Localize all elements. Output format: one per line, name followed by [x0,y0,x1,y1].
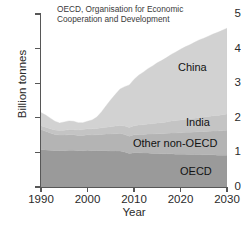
chart-figure: OECD, Organisation for Economic Cooperat… [0,0,241,225]
y-tick-0 [35,186,40,187]
x-tick-2010 [133,187,134,192]
series-label-oecd: OECD [180,166,212,177]
stacked-area-svg [41,14,227,187]
x-tick-label-2000: 2000 [67,193,109,205]
y-tick-5 [35,13,40,14]
y-tick-1 [35,152,40,153]
series-label-other-non-oecd: Other non-OECD [133,138,217,149]
x-tick-2000 [87,187,88,192]
y-tick-4 [35,48,40,49]
x-tick-label-2010: 2010 [113,193,155,205]
x-tick-label-2030: 2030 [206,193,241,205]
series-label-china: China [178,62,207,73]
plot-area [41,14,227,187]
y-axis-label: Billion tonnes [16,38,28,130]
series-label-india: India [186,117,210,128]
x-tick-label-2020: 2020 [160,193,202,205]
x-tick-1990 [40,187,41,192]
x-tick-2030 [226,187,227,192]
y-tick-2 [35,117,40,118]
x-tick-label-1990: 1990 [20,193,62,205]
y-tick-3 [35,83,40,84]
x-tick-2020 [180,187,181,192]
x-axis-label: Year [41,206,227,218]
